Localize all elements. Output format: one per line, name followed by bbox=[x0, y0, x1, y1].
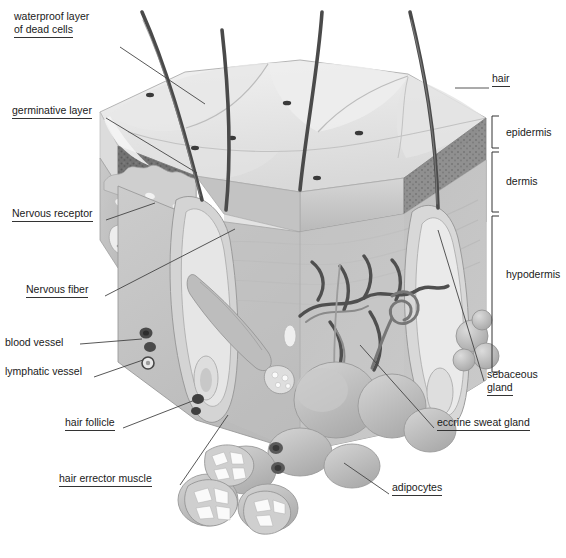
bracket-dermis bbox=[492, 152, 499, 212]
label-text: of dead cells bbox=[14, 23, 73, 38]
label-blood-vessel: blood vessel bbox=[5, 336, 63, 349]
lymphatic-vessel-marker bbox=[142, 357, 154, 369]
label-text: blood vessel bbox=[5, 336, 63, 349]
bracket-epidermis bbox=[492, 116, 499, 148]
label-text: hair bbox=[492, 72, 510, 87]
label-text: waterproof layer bbox=[14, 10, 89, 23]
label-hair-follicle: hair follicle bbox=[65, 416, 115, 431]
label-text: eccrine sweat gland bbox=[437, 416, 530, 431]
bracket-label-dermis: dermis bbox=[506, 175, 538, 187]
label-germinative-layer: germinative layer bbox=[12, 104, 92, 119]
label-nervous-receptor: Nervous receptor bbox=[12, 207, 93, 222]
label-text: Nervous fiber bbox=[26, 283, 88, 298]
label-text: lymphatic vessel bbox=[5, 365, 82, 378]
label-text: hair errector muscle bbox=[59, 472, 152, 487]
bracket-label-epidermis: epidermis bbox=[506, 126, 552, 138]
label-text: hair follicle bbox=[65, 416, 115, 431]
skin-cross-section-figure: waterproof layerof dead cellsgerminative… bbox=[0, 0, 566, 558]
leader-line-hair-follicle bbox=[123, 400, 195, 428]
bracket-label-hypodermis: hypodermis bbox=[506, 268, 560, 280]
label-lymphatic-vessel: lymphatic vessel bbox=[5, 365, 82, 378]
label-eccrine-sweat-gland: eccrine sweat gland bbox=[437, 416, 530, 431]
label-text: Nervous receptor bbox=[12, 207, 93, 222]
label-nervous-fiber: Nervous fiber bbox=[26, 283, 88, 298]
label-hair-errector-muscle: hair errector muscle bbox=[59, 472, 152, 487]
label-hair: hair bbox=[492, 72, 510, 87]
label-text: sebaceous bbox=[487, 368, 538, 381]
layer-brackets bbox=[492, 116, 499, 372]
label-sebaceous-gland: sebaceousgland bbox=[487, 368, 538, 396]
label-adipocytes: adipocytes bbox=[392, 481, 442, 496]
label-text: gland bbox=[487, 381, 513, 396]
label-waterproof-layer: waterproof layerof dead cells bbox=[14, 10, 89, 38]
label-text: adipocytes bbox=[392, 481, 442, 496]
label-text: germinative layer bbox=[12, 104, 92, 119]
